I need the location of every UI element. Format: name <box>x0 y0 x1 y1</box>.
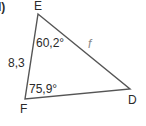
side-ed-unknown: f <box>88 38 91 50</box>
problem-label: d) <box>0 1 5 13</box>
angle-e-value: 60,2° <box>36 37 64 49</box>
angle-f-value: 75,9° <box>29 83 57 95</box>
vertex-d-label: D <box>128 94 137 106</box>
side-ef-length: 8,3 <box>8 57 25 69</box>
vertex-e-label: E <box>34 0 42 12</box>
vertex-f-label: F <box>20 103 27 115</box>
